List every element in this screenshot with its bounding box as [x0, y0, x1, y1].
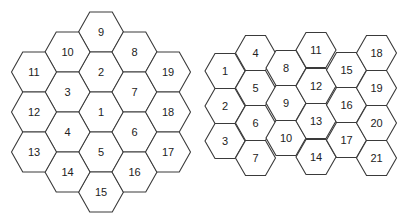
left-hex-cluster: 92151510341487616111213191817 — [12, 12, 191, 212]
hex-cell-label: 10 — [61, 46, 73, 58]
hex-cell-label: 15 — [340, 64, 352, 76]
hex-cell-label: 12 — [310, 80, 322, 92]
hex-cell-label: 17 — [162, 146, 174, 158]
hex-cell-label: 7 — [252, 152, 258, 164]
hex-cell-label: 2 — [222, 100, 228, 112]
hex-cell-label: 18 — [162, 106, 174, 118]
hex-cell-label: 20 — [370, 117, 382, 129]
hex-cell-label: 1 — [98, 106, 104, 118]
hex-cell-label: 4 — [252, 47, 258, 59]
hex-cell-label: 10 — [280, 132, 292, 144]
hex-cell-label: 9 — [98, 26, 104, 38]
hex-cell-label: 17 — [340, 134, 352, 146]
hex-cell-label: 6 — [252, 117, 258, 129]
hex-cell-label: 15 — [95, 186, 107, 198]
hex-cell-label: 14 — [310, 151, 322, 163]
hex-cell-label: 4 — [64, 126, 70, 138]
hex-cell-label: 13 — [310, 115, 322, 127]
hex-cell-label: 9 — [283, 97, 289, 109]
hex-cell-label: 3 — [64, 86, 70, 98]
hex-cell-label: 8 — [131, 46, 137, 58]
right-hex-cluster: 123456789101112131415161718192021 — [205, 33, 397, 176]
hex-cell-label: 16 — [340, 99, 352, 111]
hex-cell-label: 19 — [370, 82, 382, 94]
hex-cell-label: 16 — [128, 166, 140, 178]
hex-cell-label: 7 — [131, 86, 137, 98]
hexagon-diagram: 92151510341487616111213191817 1234567891… — [0, 0, 406, 221]
hex-cell-label: 6 — [131, 126, 137, 138]
hex-cell-label: 18 — [370, 47, 382, 59]
hex-cell-label: 5 — [98, 146, 104, 158]
hex-cell-label: 1 — [222, 65, 228, 77]
hex-cell-label: 2 — [98, 66, 104, 78]
hex-cell-label: 11 — [28, 66, 39, 78]
hex-cell-label: 12 — [28, 106, 40, 118]
hex-cell-label: 5 — [252, 82, 258, 94]
hex-cell-label: 3 — [222, 135, 228, 147]
hex-cell-label: 14 — [61, 166, 73, 178]
hex-cell-label: 11 — [310, 44, 321, 56]
hex-cell-label: 19 — [162, 66, 174, 78]
hex-cell-label: 13 — [28, 146, 40, 158]
hex-cell-label: 21 — [370, 152, 382, 164]
hex-cell-label: 8 — [283, 62, 289, 74]
